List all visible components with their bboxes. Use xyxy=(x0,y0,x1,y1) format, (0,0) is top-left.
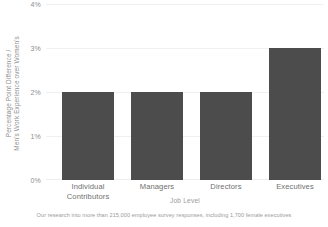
y-axis-title-line-2: Men's Work Experience over Women's xyxy=(13,36,21,151)
x-tick-directors-line-1: Directors xyxy=(188,182,264,192)
x-axis-title: Job Level xyxy=(46,197,324,204)
y-tick-label-0: 0% xyxy=(30,177,41,184)
x-tick-executives-line-1: Executives xyxy=(257,182,328,192)
y-tick-label-2: 2% xyxy=(30,89,41,96)
y-axis-title-line-1: Percentage Point Difference / xyxy=(5,36,13,151)
bar-series xyxy=(46,4,324,180)
plot-area: 4% 3% 2% 1% 0% xyxy=(46,4,324,180)
x-tick-managers: Managers xyxy=(119,182,195,192)
y-tick-label-1: 1% xyxy=(30,133,41,140)
bar-directors[interactable] xyxy=(200,92,252,180)
bar-executives[interactable] xyxy=(269,48,321,180)
bar-individual-contributors[interactable] xyxy=(62,92,114,180)
y-axis-title: Percentage Point Difference / Men's Work… xyxy=(0,0,26,186)
y-tick-label-3: 3% xyxy=(30,45,41,52)
y-tick-label-4: 4% xyxy=(30,1,41,8)
x-tick-managers-line-1: Managers xyxy=(119,182,195,192)
x-tick-directors: Directors xyxy=(188,182,264,192)
bar-chart-figure: Percentage Point Difference / Men's Work… xyxy=(0,0,328,227)
bar-managers[interactable] xyxy=(131,92,183,180)
x-tick-individual-contributors-line-1: Individual xyxy=(50,182,126,192)
chart-footnote: Our research into more than 215,000 empl… xyxy=(0,212,328,218)
x-tick-executives: Executives xyxy=(257,182,328,192)
